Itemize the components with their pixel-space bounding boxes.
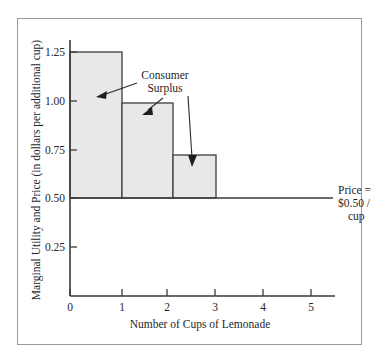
chart-svg: 1.25 1.00 0.75 0.50 0.25 0 1 2 3 4 5 Num… (0, 0, 379, 364)
x-axis-title: Number of Cups of Lemonade (130, 318, 271, 331)
y-tick-label-1.25: 1.25 (45, 46, 65, 58)
consumer-surplus-label-line2: Surplus (147, 82, 183, 95)
x-tick-label-3: 3 (212, 301, 218, 313)
x-ticks-group (70, 289, 311, 296)
y-tick-label-0.25: 0.25 (45, 241, 65, 253)
y-tick-label-0.75: 0.75 (45, 144, 65, 156)
price-annotation-line2: $0.50 / (338, 197, 371, 209)
x-tick-labels-group: 0 1 2 3 4 5 (67, 301, 314, 313)
price-annotation-line3: cup (348, 210, 365, 223)
y-tick-label-1.00: 1.00 (45, 95, 65, 107)
y-axis-title: Marginal Utility and Price (in dollars p… (30, 40, 43, 301)
x-tick-label-2: 2 (164, 301, 170, 313)
consumer-surplus-label-line1: Consumer (141, 69, 188, 81)
price-annotation-line1: Price = (338, 184, 371, 196)
consumer-surplus-leader-bar3 (188, 96, 192, 158)
x-tick-label-5: 5 (308, 301, 314, 313)
x-tick-label-4: 4 (260, 301, 266, 313)
y-tick-labels-group: 1.25 1.00 0.75 0.50 0.25 (45, 46, 65, 253)
price-annotation: Price = $0.50 / cup (338, 184, 371, 223)
x-tick-label-1: 1 (119, 301, 125, 313)
bar-3 (173, 155, 216, 198)
bar-1 (70, 52, 122, 198)
y-tick-label-0.50: 0.50 (45, 192, 65, 204)
x-tick-label-0: 0 (67, 301, 73, 313)
bar-2 (122, 103, 173, 198)
figure-canvas: 1.25 1.00 0.75 0.50 0.25 0 1 2 3 4 5 Num… (0, 0, 379, 364)
